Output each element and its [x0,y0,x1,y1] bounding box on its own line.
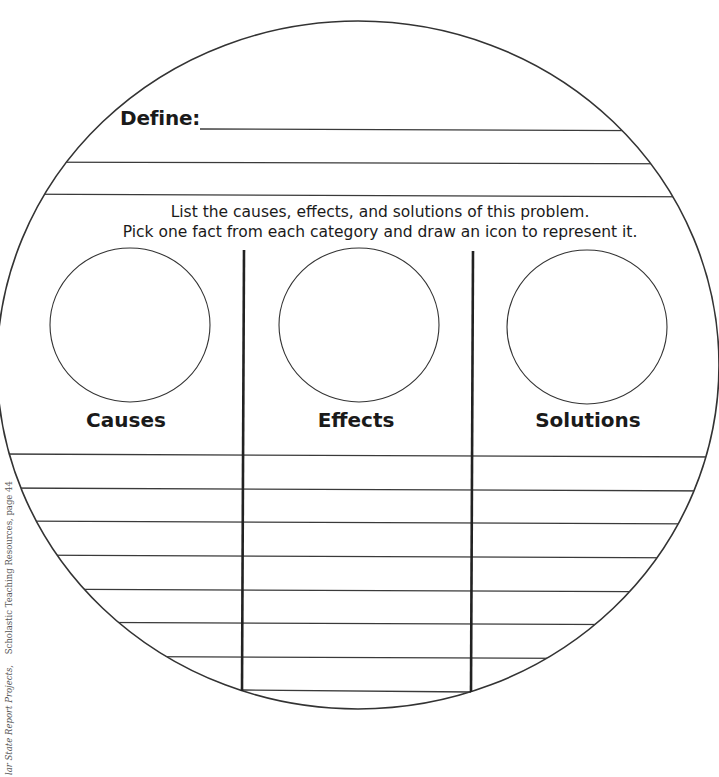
effects-answer-line-4[interactable] [248,560,468,590]
worksheet-page: Define: List the causes, effects, and so… [0,0,719,777]
define-write-line-3[interactable] [50,166,670,196]
causes-answer-line-1[interactable] [20,458,240,488]
causes-icon-drawing-area[interactable] [50,248,210,402]
column-divider-left [242,250,244,691]
solutions-answer-line-7[interactable] [477,662,557,692]
column-divider-right [471,251,473,692]
credit-source: Scholastic Teaching Resources, page 44 [4,481,14,654]
effects-answer-line-1[interactable] [248,459,468,489]
causes-answer-line-2[interactable] [25,491,240,521]
define-write-line-2[interactable] [60,134,660,164]
define-input[interactable] [200,112,634,132]
effects-answer-line-6[interactable] [248,627,468,657]
causes-answer-line-3[interactable] [35,525,240,555]
solutions-heading: Solutions [488,408,688,432]
causes-answer-line-7[interactable] [160,660,240,690]
causes-heading: Causes [26,408,226,432]
effects-answer-line-7[interactable] [248,661,468,691]
causes-answer-line-6[interactable] [110,626,240,656]
solutions-answer-line-4[interactable] [477,561,662,591]
effects-answer-line-2[interactable] [248,493,468,523]
solutions-answer-line-1[interactable] [477,460,702,490]
effects-icon-drawing-area[interactable] [279,248,439,402]
credit-title: lar State Report Projects, [4,665,14,775]
causes-answer-line-5[interactable] [75,593,240,623]
solutions-answer-line-5[interactable] [477,595,637,625]
solutions-answer-line-6[interactable] [477,628,602,658]
solutions-answer-line-2[interactable] [477,494,692,524]
copyright-credit: lar State Report Projects, Scholastic Te… [4,481,14,775]
effects-answer-line-5[interactable] [248,594,468,624]
effects-answer-line-3[interactable] [248,526,468,556]
instructions-line-1: List the causes, effects, and solutions … [100,202,660,222]
define-label: Define: [120,106,200,130]
solutions-answer-line-3[interactable] [477,527,677,557]
instructions-line-2: Pick one fact from each category and dra… [100,222,660,242]
answer-rule-1 [0,454,719,457]
solutions-icon-drawing-area[interactable] [507,250,667,404]
effects-heading: Effects [256,408,456,432]
causes-answer-line-4[interactable] [50,559,240,589]
